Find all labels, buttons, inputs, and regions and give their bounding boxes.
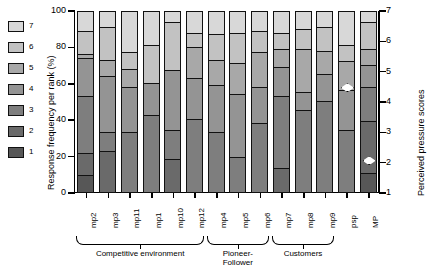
bar-segment <box>187 79 202 120</box>
bar-segment <box>100 61 115 77</box>
x-axis-label: mp7 <box>284 212 293 228</box>
bar-segment <box>230 95 245 158</box>
legend-label: 2 <box>29 124 33 138</box>
legend-label: 5 <box>29 61 33 75</box>
bar-segment <box>165 23 180 72</box>
x-axis-label: mp2 <box>89 212 98 228</box>
stacked-bar[interactable] <box>360 11 377 193</box>
group-label-line: Follower <box>185 258 291 267</box>
bar-segment <box>252 12 267 32</box>
bar-segment <box>100 77 115 133</box>
stacked-bar[interactable] <box>186 11 203 193</box>
y-tick-mark-right <box>379 192 386 194</box>
y-tick-label-right: 4 <box>386 97 391 106</box>
bar-segment <box>361 122 376 174</box>
stacked-bar[interactable] <box>295 11 312 193</box>
legend-swatch-icon <box>8 147 24 158</box>
stacked-bar[interactable] <box>99 11 116 193</box>
x-axis-label: mp1 <box>154 212 163 228</box>
x-axis-label: mp10 <box>176 208 185 228</box>
stacked-bar[interactable] <box>143 11 160 193</box>
bar-segment <box>187 12 202 34</box>
legend-item[interactable]: 4 <box>6 81 40 102</box>
legend-item[interactable]: 5 <box>6 60 40 81</box>
bar-segment <box>100 28 115 60</box>
legend-item[interactable]: 3 <box>6 102 40 123</box>
x-axis-label: mp8 <box>306 212 315 228</box>
y-tick-label-left: 40 <box>40 115 66 124</box>
legend-item[interactable]: 1 <box>6 144 40 165</box>
bar-segment <box>209 12 224 35</box>
y-tick-mark-left <box>68 83 75 85</box>
stacked-bar[interactable] <box>338 11 355 193</box>
y-tick-label-right: 6 <box>386 36 391 45</box>
y-tick-mark-right <box>379 71 386 73</box>
bar-segment <box>209 86 224 133</box>
y-tick-label-right: 2 <box>386 158 391 167</box>
bar-segment <box>122 133 137 192</box>
group-bracket <box>76 236 204 245</box>
x-tick-mark <box>86 193 88 198</box>
bar-segment <box>274 169 289 192</box>
legend-swatch-icon <box>8 105 24 116</box>
legend-swatch-icon <box>8 63 24 74</box>
bar-segment <box>209 133 224 192</box>
bar-segment <box>165 71 180 130</box>
y-tick-mark-left <box>68 10 75 12</box>
bar-segment <box>361 88 376 122</box>
x-tick-mark <box>108 193 110 198</box>
legend-label: 1 <box>29 145 33 159</box>
bar-segment <box>361 50 376 66</box>
x-axis-label: mp4 <box>219 212 228 228</box>
bar-segment <box>209 61 224 86</box>
group-bracket <box>207 236 269 245</box>
bar-segment <box>122 88 137 133</box>
stacked-bar[interactable] <box>121 11 138 193</box>
stacked-bar[interactable] <box>208 11 225 193</box>
y-tick-mark-left <box>68 156 75 158</box>
y-tick-label-left: 100 <box>40 6 66 15</box>
bar-segment <box>230 34 245 65</box>
x-tick-mark <box>129 193 131 198</box>
y-tick-mark-left <box>68 47 75 49</box>
chart-root: 7654321 Response frequency per rank (%) … <box>0 0 434 268</box>
bar-segment <box>144 84 159 116</box>
x-axis-label: mp6 <box>263 212 272 228</box>
stacked-bar[interactable] <box>164 11 181 193</box>
legend-item[interactable]: 6 <box>6 39 40 60</box>
y-tick-mark-right <box>379 41 386 43</box>
stacked-bar[interactable] <box>229 11 246 193</box>
bar-segment <box>317 28 332 51</box>
stacked-bar[interactable] <box>316 11 333 193</box>
stacked-bar[interactable] <box>251 11 268 193</box>
group-label: Customers <box>250 249 356 258</box>
bar-segment <box>78 12 93 32</box>
bar-segment <box>122 12 137 53</box>
bar-segment <box>274 12 289 34</box>
bar-segment <box>317 102 332 192</box>
legend-item[interactable]: 7 <box>6 18 40 39</box>
group-bracket <box>272 236 334 245</box>
y-tick-label-right: 3 <box>386 127 391 136</box>
y-tick-mark-left <box>68 119 75 121</box>
bar-segment <box>296 50 311 93</box>
x-tick-mark <box>194 193 196 198</box>
bar-segment <box>252 32 267 54</box>
x-axis-label: MP <box>371 216 380 228</box>
x-axis-label: mp5 <box>241 212 250 228</box>
stacked-bar[interactable] <box>273 11 290 193</box>
bar-segment <box>339 131 354 192</box>
stacked-bar[interactable] <box>77 11 94 193</box>
bar-segment <box>230 64 245 95</box>
bar-segment <box>296 93 311 111</box>
legend-item[interactable]: 2 <box>6 123 40 144</box>
x-tick-mark <box>216 193 218 198</box>
y-tick-mark-right <box>379 162 386 164</box>
bar-segment <box>165 131 180 160</box>
bar-segment <box>144 12 159 46</box>
y-tick-label-right: 1 <box>386 188 391 197</box>
bar-segment <box>252 88 267 124</box>
legend-label: 4 <box>29 82 33 96</box>
bar-segment <box>296 111 311 192</box>
bar-segment <box>274 50 289 68</box>
